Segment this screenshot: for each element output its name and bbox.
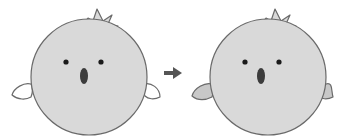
right-eye-icon [276,59,281,64]
right-arrow-icon [164,67,182,79]
left-wing-icon [12,84,33,99]
left-eye-icon [242,59,247,64]
illustration-canvas [0,0,338,137]
mouth-icon [80,68,88,84]
after-bird [192,9,333,135]
left-eye-icon [63,59,68,64]
before-bird [12,9,160,135]
mouth-icon [257,68,265,84]
right-eye-icon [98,59,103,64]
bird-body [31,19,147,135]
bird-body [210,19,326,135]
bird-comparison-svg [0,0,338,137]
